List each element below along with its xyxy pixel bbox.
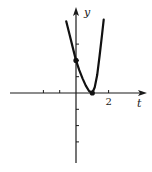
series-line xyxy=(66,20,103,93)
x-axis-label: t xyxy=(137,97,142,110)
y-axis-label: y xyxy=(83,6,91,19)
data-point xyxy=(73,58,78,63)
axes xyxy=(10,7,147,163)
x-tick-label: 2 xyxy=(106,96,112,107)
data-point xyxy=(90,90,95,95)
plot-area xyxy=(66,20,103,96)
tick-labels: 2 xyxy=(106,96,112,107)
chart: y t 2 xyxy=(0,0,152,172)
